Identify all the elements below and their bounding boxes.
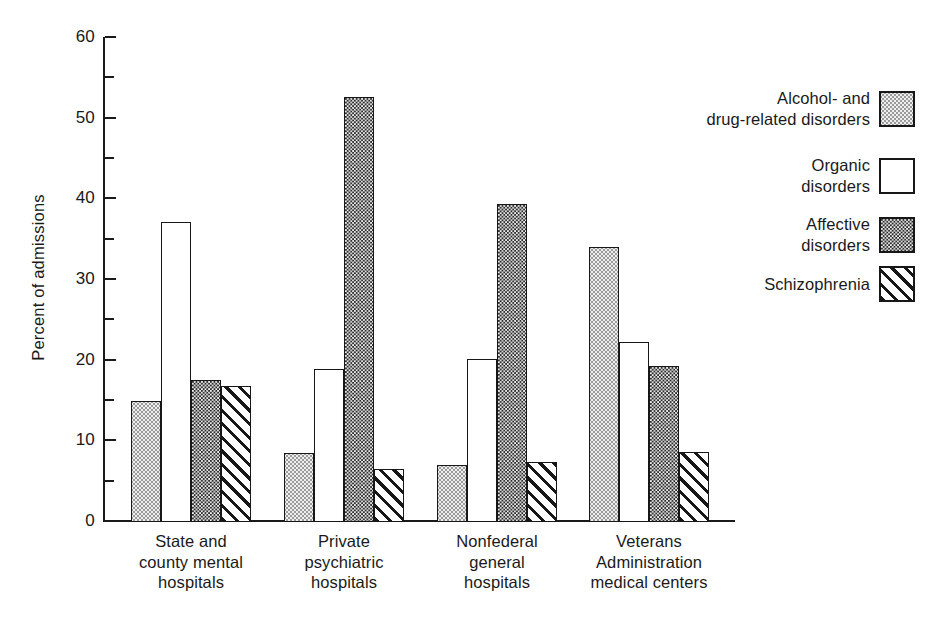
bar-chart: Percent of admissions 0102030405060 Stat… xyxy=(0,0,935,619)
legend-label-organic-line-2: disorders xyxy=(801,176,870,197)
bars-layer xyxy=(0,0,935,522)
bar-organic-group-3 xyxy=(467,359,497,522)
bar-alcohol-group-3 xyxy=(437,465,467,522)
bar-affective-group-1 xyxy=(191,380,221,522)
legend-label-organic: Organicdisorders xyxy=(801,155,879,197)
legend-swatch-schizophrenia xyxy=(879,266,915,302)
legend-swatch-organic xyxy=(879,158,915,194)
legend-label-affective-line-2: disorders xyxy=(801,235,870,256)
legend-item-affective[interactable]: Affectivedisorders xyxy=(690,214,915,256)
bar-organic-group-1 xyxy=(161,222,191,522)
legend-swatch-alcohol xyxy=(879,91,915,127)
legend-label-affective: Affectivedisorders xyxy=(801,214,879,256)
bar-affective-group-3 xyxy=(497,204,527,522)
bar-affective-group-2 xyxy=(344,97,374,522)
x-axis-label-4-line-3: medical centers xyxy=(539,572,759,593)
legend-item-organic[interactable]: Organicdisorders xyxy=(690,155,915,197)
bar-affective-group-4 xyxy=(649,366,679,522)
legend-label-schizophrenia-line-1: Schizophrenia xyxy=(764,274,870,295)
bar-organic-group-2 xyxy=(314,369,344,522)
legend-label-affective-line-1: Affective xyxy=(801,214,870,235)
bar-group-3 xyxy=(437,38,557,522)
legend-label-schizophrenia: Schizophrenia xyxy=(764,274,879,295)
bar-alcohol-group-2 xyxy=(284,453,314,522)
bar-schizophrenia-group-1 xyxy=(221,386,251,522)
legend-label-alcohol-line-2: drug-related disorders xyxy=(706,109,870,130)
bar-schizophrenia-group-2 xyxy=(374,469,404,522)
bar-group-2 xyxy=(284,38,404,522)
bar-group-1 xyxy=(131,38,251,522)
x-axis-label-4: VeteransAdministrationmedical centers xyxy=(539,531,759,593)
legend-label-organic-line-1: Organic xyxy=(801,155,870,176)
bar-organic-group-4 xyxy=(619,342,649,522)
legend-item-schizophrenia[interactable]: Schizophrenia xyxy=(690,266,915,302)
x-axis-label-4-line-2: Administration xyxy=(539,552,759,573)
bar-alcohol-group-1 xyxy=(131,401,161,522)
x-axis-label-4-line-1: Veterans xyxy=(539,531,759,552)
legend-item-alcohol[interactable]: Alcohol- anddrug-related disorders xyxy=(690,88,915,130)
bar-schizophrenia-group-3 xyxy=(527,462,557,523)
bar-alcohol-group-4 xyxy=(589,247,619,522)
legend-swatch-affective xyxy=(879,217,915,253)
bar-schizophrenia-group-4 xyxy=(679,452,709,522)
legend-label-alcohol: Alcohol- anddrug-related disorders xyxy=(706,88,879,130)
legend-label-alcohol-line-1: Alcohol- and xyxy=(706,88,870,109)
